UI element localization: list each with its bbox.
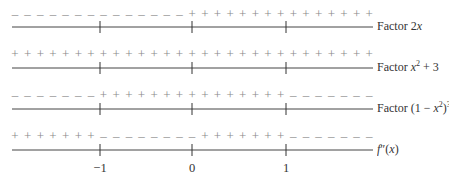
minus-sign: – (150, 128, 158, 143)
minus-sign: – (327, 87, 335, 102)
plus-sign: + (252, 128, 259, 143)
minus-sign: – (163, 6, 171, 21)
sign-row-1: ––––––––––––––+++++++++++++++Factor 2x (11, 6, 449, 36)
plus-sign: + (264, 6, 271, 21)
plus-sign: + (328, 46, 335, 61)
plus-sign: + (252, 6, 259, 21)
plus-sign: + (340, 6, 347, 21)
minus-sign: – (112, 6, 120, 21)
tick-label-0: 0 (189, 161, 195, 175)
plus-sign: + (163, 87, 170, 102)
plus-sign: + (24, 128, 31, 143)
minus-sign: – (36, 6, 44, 21)
plus-sign: + (252, 87, 259, 102)
plus-sign: + (49, 46, 56, 61)
minus-sign: – (87, 87, 95, 102)
minus-sign: – (352, 87, 360, 102)
row-label: f″(x) (377, 139, 449, 159)
plus-sign: + (163, 46, 170, 61)
minus-sign: – (137, 128, 145, 143)
plus-sign: + (328, 6, 335, 21)
plus-sign: + (188, 6, 195, 21)
minus-sign: – (11, 87, 19, 102)
minus-sign: – (163, 128, 171, 143)
plus-sign: + (138, 46, 145, 61)
minus-sign: – (99, 128, 107, 143)
plus-sign: + (100, 46, 107, 61)
minus-sign: – (150, 6, 158, 21)
minus-sign: – (340, 87, 348, 102)
tick-label-neg1: −1 (93, 161, 106, 175)
plus-sign: + (226, 46, 233, 61)
row-label: Factor (1 − x2)3 (377, 98, 449, 118)
minus-sign: – (112, 128, 120, 143)
plus-sign: + (214, 87, 221, 102)
plus-sign: + (214, 128, 221, 143)
plus-sign: + (290, 46, 297, 61)
row-label: Factor x2 + 3 (377, 57, 449, 77)
plus-sign: + (302, 6, 309, 21)
minus-sign: – (314, 128, 322, 143)
plus-sign: + (11, 46, 18, 61)
plus-sign: + (176, 46, 183, 61)
minus-sign: – (125, 128, 133, 143)
plus-sign: + (37, 46, 44, 61)
plus-sign: + (302, 46, 309, 61)
sign-row-4: +++++++––––––––+++++++–––––––f″(x) (11, 128, 449, 159)
plus-sign: + (277, 87, 284, 102)
plus-sign: + (62, 128, 69, 143)
plus-sign: + (366, 6, 373, 21)
sign-row-3: –––––––+++++++++++++++–––––––Factor (1 −… (11, 87, 449, 118)
plus-sign: + (87, 46, 94, 61)
sign-rows: ––––––––––––––+++++++++++++++Factor 2x++… (11, 6, 449, 159)
plus-sign: + (226, 87, 233, 102)
minus-sign: – (352, 128, 360, 143)
plus-sign: + (239, 128, 246, 143)
minus-sign: – (61, 6, 69, 21)
plus-sign: + (11, 128, 18, 143)
minus-sign: – (289, 128, 297, 143)
plus-sign: + (113, 46, 120, 61)
plus-sign: + (277, 6, 284, 21)
plus-sign: + (49, 128, 56, 143)
plus-sign: + (138, 87, 145, 102)
minus-sign: – (365, 128, 373, 143)
minus-sign: – (137, 6, 145, 21)
tick-label-1: 1 (283, 161, 289, 175)
row-label: Factor 2x (377, 16, 449, 36)
plus-sign: + (226, 6, 233, 21)
plus-sign: + (340, 46, 347, 61)
plus-sign: + (277, 46, 284, 61)
plus-sign: + (239, 87, 246, 102)
plus-sign: + (75, 128, 82, 143)
plus-sign: + (290, 6, 297, 21)
minus-sign: – (36, 87, 44, 102)
minus-sign: – (49, 6, 57, 21)
plus-sign: + (315, 6, 322, 21)
minus-sign: – (61, 87, 69, 102)
plus-sign: + (188, 46, 195, 61)
minus-sign: – (87, 6, 95, 21)
plus-sign: + (100, 87, 107, 102)
plus-sign: + (214, 46, 221, 61)
plus-sign: + (113, 87, 120, 102)
plus-sign: + (252, 46, 259, 61)
plus-sign: + (62, 46, 69, 61)
plus-sign: + (353, 46, 360, 61)
plus-sign: + (366, 46, 373, 61)
plus-sign: + (214, 6, 221, 21)
plus-sign: + (353, 6, 360, 21)
minus-sign: – (99, 6, 107, 21)
minus-sign: – (23, 6, 31, 21)
plus-sign: + (151, 87, 158, 102)
plus-sign: + (125, 87, 132, 102)
minus-sign: – (74, 6, 82, 21)
plus-sign: + (75, 46, 82, 61)
minus-sign: – (365, 87, 373, 102)
plus-sign: + (201, 87, 208, 102)
plus-sign: + (264, 46, 271, 61)
plus-sign: + (87, 128, 94, 143)
minus-sign: – (340, 128, 348, 143)
minus-sign: – (11, 6, 19, 21)
minus-sign: – (188, 128, 196, 143)
